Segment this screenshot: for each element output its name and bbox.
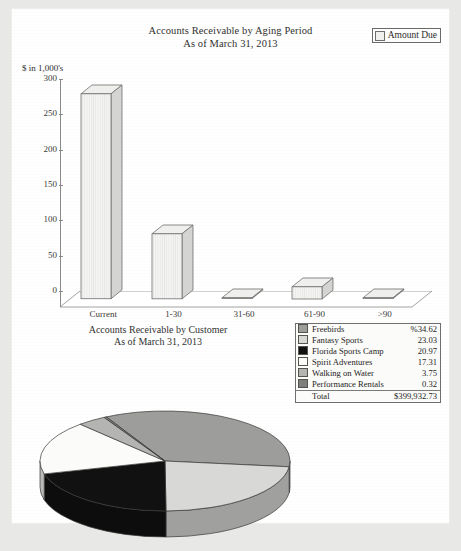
legend-color-swatch-icon [296,335,310,346]
amount-due-legend[interactable]: Amount Due [372,28,441,43]
legend-color-swatch-icon [296,368,310,379]
legend-row-name: Walking on Water [310,368,390,379]
y-axis-tick-label: 300 [44,73,58,83]
legend-color-swatch-icon [296,357,310,368]
y-axis-tick-label: 250 [44,108,58,118]
bar-column[interactable] [362,288,405,300]
y-axis-tick [59,220,63,221]
legend-row-value: 20.97 [390,346,440,357]
legend-color-swatch-icon [296,379,310,391]
pie-graphic: Freebirds 34.62Fantasy Sports 23.03Flori… [30,409,300,521]
bar-column[interactable] [221,288,264,300]
legend-row-name: Fantasy Sports [310,335,390,346]
y-axis-tick-label: 200 [44,144,58,154]
legend-row[interactable]: Performance Rentals 0.32 [296,379,440,391]
bar-column[interactable] [291,277,334,300]
amount-due-legend-label: Amount Due [388,30,437,41]
report-page: Accounts Receivable by Aging Period As o… [12,9,449,523]
pie-chart-title-line2: As of March 31, 2013 [114,336,202,347]
legend-row-name: Spirit Adventures [310,357,390,368]
y-axis-tick-label: 0 [53,285,58,295]
legend-table-grid: Freebirds %34.62 Fantasy Sports 23.03 Fl… [296,324,440,402]
legend-total-value: $399,932.73 [390,391,440,403]
y-axis-tick [59,256,63,257]
y-axis-tick [59,114,63,115]
y-axis-line [60,79,61,307]
bar-column[interactable] [80,84,123,300]
bar-plot-area: 050100150200250300 [60,79,432,307]
y-axis-tick [59,79,63,80]
legend-row-value: %34.62 [390,324,440,335]
customer-legend-table[interactable]: Freebirds %34.62 Fantasy Sports 23.03 Fl… [295,323,441,403]
legend-row-name: Performance Rentals [310,379,390,391]
bar-chart-title-line1: Accounts Receivable by Aging Period [149,25,313,36]
legend-total-label: Total [310,391,390,403]
legend-row-value: 3.75 [390,368,440,379]
legend-total-spacer [296,391,310,403]
legend-color-swatch-icon [296,346,310,357]
pie-chart: Accounts Receivable by Customer As of Ma… [12,309,449,523]
y-axis-tick-label: 100 [44,214,58,224]
legend-row[interactable]: Spirit Adventures 17.31 [296,357,440,368]
pie-chart-title: Accounts Receivable by Customer As of Ma… [12,324,304,348]
y-axis-tick [59,150,63,151]
legend-color-swatch-icon [296,324,310,335]
y-axis-tick [59,185,63,186]
legend-row-name: Florida Sports Camp [310,346,390,357]
bar-chart: Accounts Receivable by Aging Period As o… [12,9,449,309]
legend-row[interactable]: Fantasy Sports 23.03 [296,335,440,346]
legend-swatch-icon [375,31,385,41]
y-axis-tick-label: 50 [48,250,57,260]
legend-row-value: 23.03 [390,335,440,346]
legend-row[interactable]: Freebirds %34.62 [296,324,440,335]
legend-row-value: 17.31 [390,357,440,368]
legend-row[interactable]: Florida Sports Camp 20.97 [296,346,440,357]
legend-row[interactable]: Walking on Water 3.75 [296,368,440,379]
legend-total-row: Total $399,932.73 [296,391,440,403]
y-axis-unit-label: $ in 1,000's [22,63,63,73]
legend-row-name: Freebirds [310,324,390,335]
pie-chart-title-line1: Accounts Receivable by Customer [89,324,228,335]
legend-row-value: 0.32 [390,379,440,391]
y-axis-tick-label: 150 [44,179,58,189]
bar-column[interactable] [151,224,194,300]
